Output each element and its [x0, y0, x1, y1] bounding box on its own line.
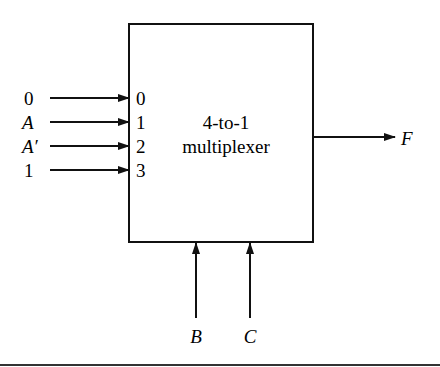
select-signal-b: B	[190, 326, 202, 347]
block-label-line2: multiplexer	[182, 136, 270, 157]
select-signal-c: C	[244, 326, 257, 347]
mux-block	[129, 24, 313, 242]
block-label-line1: 4-to-1	[203, 112, 249, 133]
input-signal-0: 0	[24, 88, 34, 109]
pin-3: 3	[136, 160, 146, 181]
pin-2: 2	[136, 136, 146, 157]
input-signal-3: 1	[24, 160, 34, 181]
output-signal-f: F	[400, 128, 413, 149]
pin-0: 0	[136, 88, 146, 109]
input-signal-1: A	[20, 112, 34, 133]
input-signal-2: A′	[20, 136, 39, 157]
pin-1: 1	[136, 112, 146, 133]
mux-diagram: 0 A A′ 1 0 1 2 3 4-to-1 multiplexer F B …	[0, 0, 440, 367]
